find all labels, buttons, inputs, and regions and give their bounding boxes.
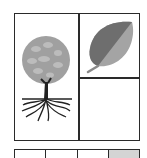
bottom-cell-1 — [15, 150, 46, 158]
tree-with-roots-icon — [18, 35, 76, 125]
bottom-cell-2 — [46, 150, 77, 158]
leaf-icon — [82, 18, 136, 74]
bottom-cell-3 — [78, 150, 109, 158]
bottom-cell-4-shaded — [109, 150, 139, 158]
bottom-row — [14, 149, 140, 158]
horizontal-divider — [78, 77, 140, 79]
